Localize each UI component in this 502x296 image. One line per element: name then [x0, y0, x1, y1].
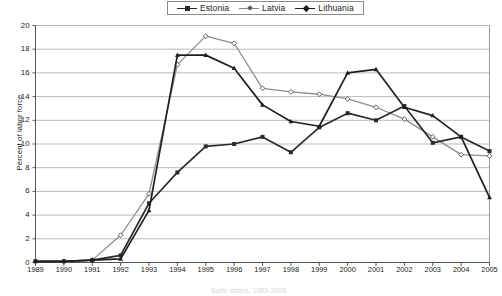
chart-caption: Baltic states, 1989-2005 — [0, 287, 497, 294]
y-tick-label-4: 4 — [8, 211, 30, 219]
series-line-latvia — [36, 36, 490, 261]
datapoint-estonia-1994 — [175, 170, 179, 174]
datapoint-latvia-2000 — [345, 97, 350, 102]
legend-label-lithuania: Lithuania — [318, 4, 353, 13]
legend-label-latvia: Latvia — [262, 4, 285, 13]
x-tick-label-2005: 2005 — [473, 266, 502, 274]
y-tick-label-14: 14 — [8, 93, 30, 101]
legend-diamond-marker — [247, 5, 253, 11]
y-tick-label-12: 12 — [8, 116, 30, 124]
datapoint-lithuania-1993 — [147, 208, 152, 212]
datapoint-latvia-2001 — [374, 105, 379, 110]
legend-marker-triangle-icon — [295, 4, 315, 13]
datapoint-estonia-1995 — [204, 144, 208, 148]
y-tick-label-8: 8 — [8, 164, 30, 172]
datapoint-estonia-1997 — [261, 135, 265, 139]
y-tick-label-10: 10 — [8, 140, 30, 148]
y-tick-label-20: 20 — [8, 22, 30, 30]
chart-legend: Estonia Latvia Lithuania — [167, 1, 364, 15]
datapoint-estonia-2001 — [374, 118, 378, 122]
series-line-estonia — [36, 106, 490, 261]
legend-marker-square-icon — [177, 4, 197, 13]
datapoint-estonia-2003 — [431, 141, 435, 145]
datapoint-estonia-2005 — [488, 149, 492, 153]
datapoint-estonia-2000 — [346, 111, 350, 115]
y-tick-label-18: 18 — [8, 45, 30, 53]
legend-triangle-marker — [303, 5, 309, 11]
y-axis-title: Percent of labor force — [15, 68, 24, 198]
legend-marker-diamond-icon — [239, 4, 259, 13]
y-tick-label-16: 16 — [8, 69, 30, 77]
datapoint-estonia-1996 — [232, 142, 236, 146]
datapoint-latvia-1999 — [317, 92, 322, 97]
datapoint-estonia-1998 — [289, 150, 293, 154]
legend-item-latvia[interactable]: Latvia — [239, 4, 285, 13]
datapoint-latvia-2005 — [487, 153, 492, 158]
legend-square-marker — [185, 6, 190, 11]
legend-item-lithuania[interactable]: Lithuania — [295, 4, 353, 13]
legend-item-estonia[interactable]: Estonia — [177, 4, 229, 13]
legend-label-estonia: Estonia — [200, 4, 229, 13]
y-tick-label-2: 2 — [8, 235, 30, 243]
datapoint-latvia-1998 — [288, 89, 293, 94]
y-tick-label-6: 6 — [8, 187, 30, 195]
